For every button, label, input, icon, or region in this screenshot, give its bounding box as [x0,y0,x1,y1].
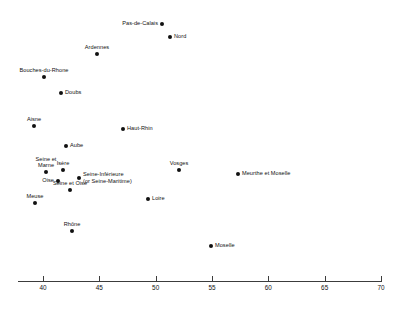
x-axis: 40455055606570 [0,268,411,310]
point-label: Pas-de-Calais [122,20,158,26]
point-label: Ardennes [85,44,109,50]
point-label: Moselle [215,242,235,248]
x-axis-tick [156,276,157,282]
point-marker [59,91,63,95]
x-axis-tick-label: 65 [321,284,328,292]
point-label: Meurthe et Moselle [242,170,290,176]
x-axis-tick-label: 45 [96,284,103,292]
point-marker [177,168,181,172]
x-axis-tick-label: 60 [265,284,272,292]
point-label: Isère [57,160,70,166]
x-axis-tick [99,276,100,282]
point-marker [42,75,46,79]
x-axis-tick [325,276,326,282]
point-label: Vosges [170,160,189,166]
point-marker [33,201,37,205]
point-label: Aube [70,142,83,148]
point-marker [95,52,99,56]
point-label: Rhône [64,221,81,227]
point-label: Aisne [27,116,41,122]
point-marker [209,244,213,248]
x-axis-tick [212,276,213,282]
x-axis-tick-label: 50 [152,284,159,292]
point-marker [236,172,240,176]
point-marker [44,170,48,174]
point-marker [32,124,36,128]
x-axis-line [18,281,382,282]
point-marker [146,197,150,201]
point-marker [160,22,164,26]
point-label: Nord [174,33,186,39]
point-label: Meuse [26,193,43,199]
point-label: Doubs [65,89,81,95]
point-label: Seine-Inférieure(or Seine-Maritime) [83,171,147,184]
point-label: Loire [152,195,165,201]
scatter-figure: Pas-de-CalaisNordArdennesBouches-du-Rhon… [0,0,411,310]
x-axis-tick [381,276,382,282]
x-axis-tick-label: 40 [39,284,46,292]
point-marker [61,168,65,172]
point-marker [64,144,68,148]
x-axis-tick-label: 55 [208,284,215,292]
point-marker [121,127,125,131]
x-axis-tick [268,276,269,282]
point-label: Haut-Rhin [127,125,153,131]
point-label: Bouches-du-Rhone [20,67,69,73]
point-marker [70,229,74,233]
point-marker [168,35,172,39]
plot-area: Pas-de-CalaisNordArdennesBouches-du-Rhon… [0,0,411,268]
point-marker [68,188,72,192]
point-label: Seine et Oise [53,180,87,186]
x-axis-tick-label: 70 [377,284,384,292]
x-axis-tick [43,276,44,282]
